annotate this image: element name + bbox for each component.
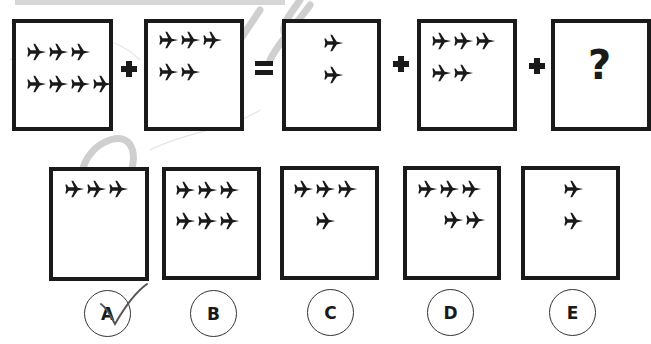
- question-mark: ?: [588, 45, 611, 85]
- plane-row: [563, 178, 585, 202]
- plus-operator: [393, 56, 409, 72]
- option-label: B: [207, 304, 220, 324]
- airplane-icon: [175, 210, 197, 234]
- airplane-icon: [197, 210, 219, 234]
- airplane-icon: [475, 30, 497, 54]
- airplane-icon: [64, 178, 86, 202]
- option-box-d[interactable]: [403, 166, 501, 280]
- airplane-icon: [86, 178, 108, 202]
- option-e-button[interactable]: E: [549, 289, 596, 336]
- airplane-icon: [337, 178, 359, 202]
- option-label: A: [101, 304, 114, 324]
- option-label: D: [443, 303, 457, 323]
- plane-row: [431, 30, 497, 54]
- plane-row: [26, 73, 114, 97]
- equation-term-4: [417, 19, 517, 131]
- airplane-icon: [197, 179, 219, 203]
- airplane-icon: [443, 209, 465, 233]
- airplane-icon: [70, 41, 92, 65]
- plane-row: [431, 62, 475, 86]
- option-label: E: [567, 303, 579, 323]
- plane-row: [563, 210, 585, 234]
- airplane-icon: [563, 210, 585, 234]
- airplane-icon: [439, 178, 461, 202]
- plane-row: [315, 210, 337, 234]
- option-box-e[interactable]: [521, 166, 620, 280]
- airplane-icon: [293, 178, 315, 202]
- plus-operator: [121, 61, 137, 77]
- plane-row: [175, 179, 241, 203]
- plane-row: [293, 178, 359, 202]
- header-banner: [15, 0, 285, 5]
- airplane-icon: [26, 73, 48, 97]
- airplane-icon: [219, 210, 241, 234]
- equation-term-2: [144, 19, 244, 131]
- airplane-icon: [315, 210, 337, 234]
- equation-term-3: [282, 19, 381, 131]
- option-b-button[interactable]: B: [190, 290, 237, 337]
- airplane-icon: [323, 64, 345, 88]
- airplane-icon: [219, 179, 241, 203]
- airplane-icon: [431, 30, 453, 54]
- airplane-icon: [461, 178, 483, 202]
- plane-row: [158, 29, 224, 53]
- airplane-icon: [158, 29, 180, 53]
- airplane-icon: [70, 73, 92, 97]
- option-box-c[interactable]: [280, 166, 379, 280]
- plane-row: [443, 209, 487, 233]
- airplane-icon: [180, 29, 202, 53]
- equals-operator: [255, 60, 273, 76]
- equation-term-unknown: ?: [551, 19, 651, 131]
- plane-row: [417, 178, 483, 202]
- plane-row: [26, 41, 92, 65]
- airplane-icon: [453, 30, 475, 54]
- airplane-icon: [48, 41, 70, 65]
- option-box-b[interactable]: [162, 167, 261, 280]
- option-label: C: [324, 303, 336, 323]
- airplane-icon: [453, 62, 475, 86]
- airplane-icon: [563, 178, 585, 202]
- airplane-icon: [92, 73, 114, 97]
- airplane-icon: [48, 73, 70, 97]
- airplane-icon: [108, 178, 130, 202]
- plane-row: [64, 178, 130, 202]
- airplane-icon: [26, 41, 48, 65]
- plane-row: [323, 32, 345, 56]
- plane-row: [323, 64, 345, 88]
- plane-row: [158, 61, 202, 85]
- option-a-button[interactable]: A: [84, 290, 131, 337]
- airplane-icon: [315, 178, 337, 202]
- option-c-button[interactable]: C: [307, 289, 354, 336]
- airplane-icon: [465, 209, 487, 233]
- airplane-icon: [180, 61, 202, 85]
- plus-operator: [529, 58, 545, 74]
- airplane-icon: [202, 29, 224, 53]
- equation-term-1: [12, 19, 113, 131]
- plane-row: [175, 210, 241, 234]
- airplane-icon: [175, 179, 197, 203]
- option-d-button[interactable]: D: [427, 289, 474, 336]
- airplane-icon: [417, 178, 439, 202]
- airplane-icon: [323, 32, 345, 56]
- option-box-a[interactable]: [49, 167, 149, 281]
- airplane-icon: [431, 62, 453, 86]
- airplane-icon: [158, 61, 180, 85]
